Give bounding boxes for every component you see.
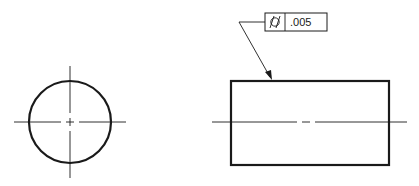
tolerance-value: .005 xyxy=(290,16,311,28)
end-view xyxy=(14,66,126,178)
arrowhead-icon xyxy=(265,70,272,80)
cylinder-side-rectangle xyxy=(231,81,389,165)
feature-control-frame: .005 xyxy=(265,13,327,31)
engineering-drawing: .005 xyxy=(0,0,419,186)
side-view xyxy=(212,81,407,165)
